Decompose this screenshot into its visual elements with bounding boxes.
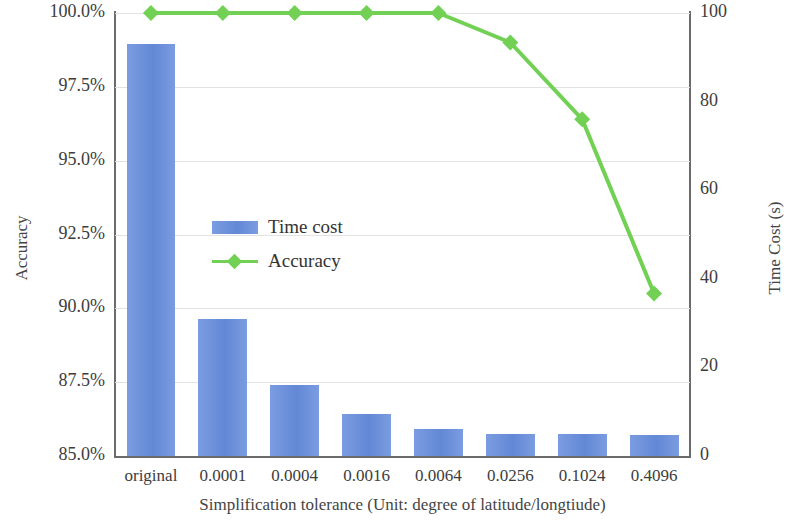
chart-legend: Time cost Accuracy: [212, 210, 343, 278]
right-tick-1: 20: [700, 355, 760, 376]
left-tick-6: 100.0%: [5, 1, 105, 22]
accuracy-marker-2: [287, 5, 303, 21]
right-tick-0: 0: [700, 444, 760, 465]
x-axis-title: Simplification tolerance (Unit: degree o…: [115, 495, 690, 515]
x-tick-3: 0.0016: [331, 466, 403, 486]
right-axis-tick-labels: 020406080100: [700, 0, 760, 529]
accuracy-marker-4: [430, 5, 446, 21]
plot-area: [115, 13, 690, 456]
legend-label-accuracy: Accuracy: [268, 250, 341, 272]
legend-item-accuracy: Accuracy: [212, 244, 343, 278]
legend-label-time-cost: Time cost: [268, 216, 343, 238]
x-tick-2: 0.0004: [259, 466, 331, 486]
x-tick-5: 0.0256: [474, 466, 546, 486]
accuracy-marker-7: [646, 286, 662, 302]
x-axis-line: [114, 456, 691, 458]
accuracy-marker-3: [359, 5, 375, 21]
left-axis-tick-labels: 85.0%87.5%90.0%92.5%95.0%97.5%100.0%: [5, 0, 105, 529]
chart-figure: Accuracy Time Cost (s) Simplification to…: [0, 0, 805, 529]
right-tick-4: 80: [700, 90, 760, 111]
right-tick-5: 100: [700, 1, 760, 22]
left-tick-0: 85.0%: [5, 444, 105, 465]
left-tick-1: 87.5%: [5, 370, 105, 391]
accuracy-marker-1: [215, 5, 231, 21]
x-tick-6: 0.1024: [546, 466, 618, 486]
x-tick-7: 0.4096: [618, 466, 690, 486]
left-tick-2: 90.0%: [5, 296, 105, 317]
left-tick-3: 92.5%: [5, 223, 105, 244]
right-axis-title: Time Cost (s): [765, 178, 785, 318]
x-tick-4: 0.0064: [403, 466, 475, 486]
legend-item-time-cost: Time cost: [212, 210, 343, 244]
x-tick-0: original: [115, 466, 187, 486]
legend-swatch-line-icon: [212, 254, 258, 268]
legend-swatch-bar-icon: [212, 221, 258, 234]
right-tick-3: 60: [700, 178, 760, 199]
left-tick-4: 95.0%: [5, 149, 105, 170]
x-tick-1: 0.0001: [187, 466, 259, 486]
line-series-accuracy: [115, 13, 690, 456]
accuracy-marker-0: [143, 5, 159, 21]
left-tick-5: 97.5%: [5, 75, 105, 96]
right-tick-2: 40: [700, 267, 760, 288]
